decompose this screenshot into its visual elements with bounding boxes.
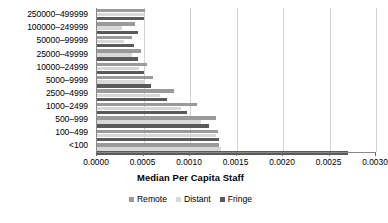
x-axis-tick-label: 0.0020 xyxy=(269,157,295,168)
bar-fringe[interactable] xyxy=(97,71,144,74)
bar-row xyxy=(97,63,376,66)
bar-row xyxy=(97,76,376,79)
x-axis-tick-label: 0.0030 xyxy=(362,157,388,168)
bar-fringe[interactable] xyxy=(97,31,138,34)
x-axis-tick xyxy=(189,152,190,156)
bar-remote[interactable] xyxy=(97,89,174,92)
bar-fringe[interactable] xyxy=(97,138,219,141)
bar-remote[interactable] xyxy=(97,49,141,52)
y-axis-label: 1000–2499 xyxy=(0,100,92,113)
bar-fringe[interactable] xyxy=(97,57,138,60)
bar-row xyxy=(97,130,376,133)
bar-remote[interactable] xyxy=(97,130,218,133)
bar-distant[interactable] xyxy=(97,13,144,16)
x-axis-tick-label: 0.0025 xyxy=(316,157,342,168)
bar-distant[interactable] xyxy=(97,94,160,97)
x-axis-tick xyxy=(143,152,144,156)
bar-distant[interactable] xyxy=(97,26,122,29)
legend-item-remote[interactable]: Remote xyxy=(129,194,167,204)
x-axis-tick xyxy=(375,152,376,156)
bar-remote[interactable] xyxy=(97,103,197,106)
legend-label: Distant xyxy=(184,194,211,204)
bar-row xyxy=(97,124,376,127)
x-axis-tick xyxy=(329,152,330,156)
bar-fringe[interactable] xyxy=(97,44,134,47)
bar-row xyxy=(97,84,376,87)
bar-row xyxy=(97,111,376,114)
x-axis-tick xyxy=(96,152,97,156)
bar-row xyxy=(97,98,376,101)
bar-row xyxy=(97,116,376,119)
bar-distant[interactable] xyxy=(97,107,181,110)
bar-row xyxy=(97,53,376,56)
x-axis-title: Median Per Capita Staff xyxy=(0,172,381,183)
bar-fringe[interactable] xyxy=(97,84,151,87)
bar-remote[interactable] xyxy=(97,36,132,39)
bar-row xyxy=(97,89,376,92)
bar-fringe[interactable] xyxy=(97,111,187,114)
bar-fringe[interactable] xyxy=(97,124,209,127)
bar-distant[interactable] xyxy=(97,40,124,43)
bar-group xyxy=(97,102,376,115)
gridline xyxy=(376,8,377,152)
bar-row xyxy=(97,31,376,34)
bar-row xyxy=(97,26,376,29)
bar-group xyxy=(97,89,376,102)
bar-remote[interactable] xyxy=(97,22,135,25)
y-axis-label: 2500–4999 xyxy=(0,87,92,100)
bar-group xyxy=(97,129,376,142)
bar-row xyxy=(97,22,376,25)
y-axis-label: 500–999 xyxy=(0,113,92,126)
bar-distant[interactable] xyxy=(97,147,221,150)
bar-remote[interactable] xyxy=(97,116,216,119)
bar-remote[interactable] xyxy=(97,9,145,12)
x-axis-tick-label: 0.0010 xyxy=(176,157,202,168)
bar-row xyxy=(97,80,376,83)
bar-distant[interactable] xyxy=(97,120,201,123)
bar-row xyxy=(97,13,376,16)
y-axis-label: 25000–49999 xyxy=(0,47,92,60)
bar-row xyxy=(97,9,376,12)
bar-row xyxy=(97,147,376,150)
legend-swatch-remote-icon xyxy=(129,197,134,202)
legend-item-distant[interactable]: Distant xyxy=(176,194,211,204)
bar-row xyxy=(97,94,376,97)
bar-row xyxy=(97,49,376,52)
bar-row xyxy=(97,40,376,43)
bar-distant[interactable] xyxy=(97,134,216,137)
bar-group xyxy=(97,35,376,48)
y-axis-label: 5000–9999 xyxy=(0,73,92,86)
legend-item-fringe[interactable]: Fringe xyxy=(220,194,252,204)
bar-fringe[interactable] xyxy=(97,98,167,101)
y-axis-label: 100000–249999 xyxy=(0,21,92,34)
bar-remote[interactable] xyxy=(97,76,153,79)
x-axis-ticks xyxy=(96,152,376,156)
bar-distant[interactable] xyxy=(97,67,139,70)
x-axis-tick xyxy=(282,152,283,156)
bar-remote[interactable] xyxy=(97,63,147,66)
bar-row xyxy=(97,57,376,60)
legend-swatch-distant-icon xyxy=(176,197,181,202)
bar-remote[interactable] xyxy=(97,143,219,146)
x-axis-tick-label: 0.0015 xyxy=(223,157,249,168)
bar-fringe[interactable] xyxy=(97,17,144,20)
y-axis-label: <100 xyxy=(0,139,92,152)
x-axis-tick-label: 0.0000 xyxy=(83,157,109,168)
bar-group xyxy=(97,115,376,128)
bar-distant[interactable] xyxy=(97,80,145,83)
bar-group xyxy=(97,8,376,21)
bar-row xyxy=(97,67,376,70)
x-axis-tick-label: 0.0005 xyxy=(130,157,156,168)
plot-area xyxy=(96,8,376,152)
y-axis-label: 10000–24999 xyxy=(0,60,92,73)
y-axis-label: 250000–499999 xyxy=(0,8,92,21)
bar-row xyxy=(97,71,376,74)
bar-group xyxy=(97,75,376,88)
bar-row xyxy=(97,120,376,123)
bar-row xyxy=(97,138,376,141)
legend-label: Fringe xyxy=(228,194,252,204)
bar-row xyxy=(97,107,376,110)
bar-distant[interactable] xyxy=(97,53,132,56)
legend-label: Remote xyxy=(137,194,167,204)
